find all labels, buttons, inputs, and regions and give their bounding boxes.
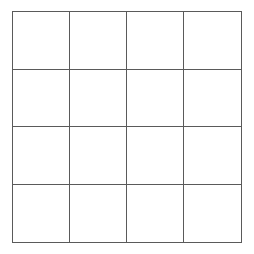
cell-r4-c4[interactable] xyxy=(184,185,241,243)
cell-r2-c1[interactable] xyxy=(13,70,70,128)
cell-r1-c4[interactable] xyxy=(184,12,241,70)
cell-r2-c4[interactable] xyxy=(184,70,241,128)
cell-r2-c2[interactable] xyxy=(70,70,127,128)
cell-r1-c3[interactable] xyxy=(127,12,184,70)
game-board xyxy=(12,11,242,243)
cell-r4-c2[interactable] xyxy=(70,185,127,243)
cell-r4-c3[interactable] xyxy=(127,185,184,243)
cell-r2-c3[interactable] xyxy=(127,70,184,128)
cell-r3-c3[interactable] xyxy=(127,127,184,185)
cell-r3-c4[interactable] xyxy=(184,127,241,185)
cell-r1-c1[interactable] xyxy=(13,12,70,70)
cell-r3-c1[interactable] xyxy=(13,127,70,185)
cell-r3-c2[interactable] xyxy=(70,127,127,185)
cell-r4-c1[interactable] xyxy=(13,185,70,243)
cell-r1-c2[interactable] xyxy=(70,12,127,70)
